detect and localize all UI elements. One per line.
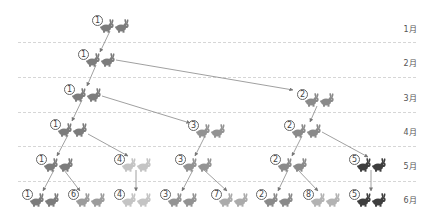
rabbit-pair-icon xyxy=(292,124,322,138)
rabbit-pair-icon xyxy=(122,193,152,207)
arrow xyxy=(116,60,293,90)
rabbit-pair-icon xyxy=(196,124,226,138)
arrow xyxy=(204,170,227,191)
rabbit-pair-icon xyxy=(76,193,106,207)
arrow xyxy=(88,134,128,156)
rabbit-pair-icon xyxy=(86,53,116,67)
rabbit-pair-icon xyxy=(30,193,60,207)
arrow xyxy=(57,135,68,156)
rabbit-pair-icon xyxy=(58,123,88,137)
arrow xyxy=(72,100,82,121)
arrow xyxy=(278,170,288,191)
arrow xyxy=(43,170,54,191)
arrow xyxy=(182,170,193,191)
arrow xyxy=(87,65,96,86)
rabbit-pair-icon xyxy=(122,158,152,172)
rabbit-pair-icon xyxy=(72,88,102,102)
arrow xyxy=(322,132,368,157)
arrow xyxy=(195,136,205,156)
arrow xyxy=(298,170,318,191)
arrow xyxy=(100,31,110,52)
arrow xyxy=(310,106,317,122)
rabbit-pair-icon xyxy=(357,158,387,172)
rabbit-pair-icon xyxy=(278,158,308,172)
rabbit-pair-icon xyxy=(183,158,213,172)
arrow xyxy=(102,96,190,123)
arrow xyxy=(292,136,302,156)
rabbit-pair-icon xyxy=(305,93,335,107)
arrow xyxy=(64,170,80,191)
rabbit-pair-icon xyxy=(44,158,74,172)
rabbit-diagram: 1月2月3月4月5月6月 1 1 xyxy=(0,0,433,221)
rabbit-pair-icon xyxy=(311,193,341,207)
rabbit-pair-icon xyxy=(219,193,249,207)
rabbit-pair-icon xyxy=(357,193,387,207)
arrow-layer xyxy=(0,0,433,221)
rabbit-pair-icon xyxy=(264,193,294,207)
rabbit-pair-icon xyxy=(168,193,198,207)
rabbit-pair-icon xyxy=(100,19,130,33)
